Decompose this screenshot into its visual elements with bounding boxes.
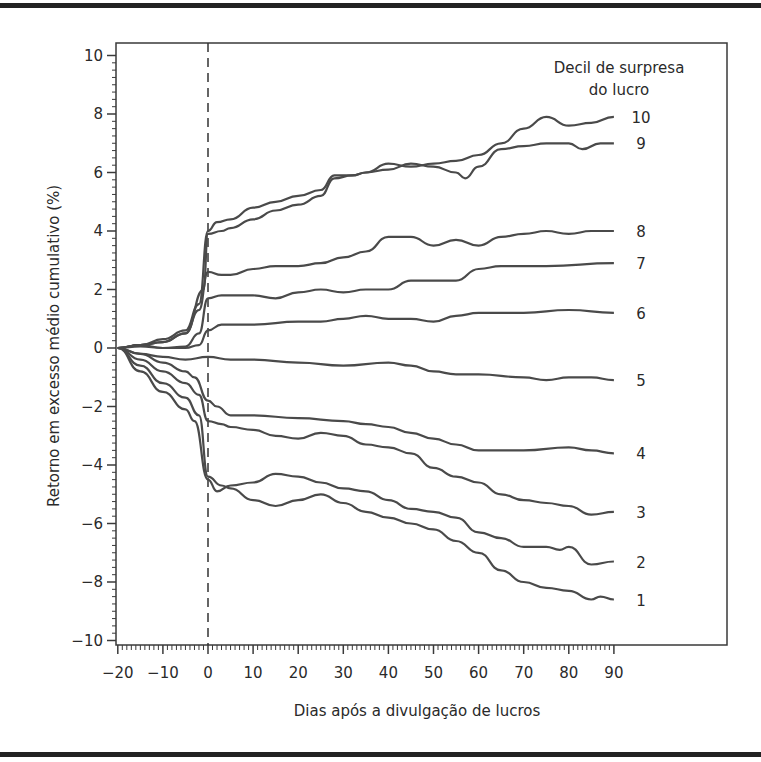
cumulative-abnormal-return-chart: 1086420−2−4−6−8−10 −20−10010203040506070… <box>0 0 761 762</box>
decile-6-label: 6 <box>636 305 646 323</box>
y-axis-title: Retorno em excesso médio cumulativo (%) <box>45 185 63 507</box>
y-tick-label: −2 <box>81 398 103 416</box>
y-tick-label: 2 <box>93 281 103 299</box>
y-tick-label: −10 <box>71 632 103 650</box>
x-tick-label: 60 <box>469 664 488 682</box>
x-tick-label: 0 <box>203 664 213 682</box>
decile-3-line <box>118 348 614 515</box>
series-lines <box>118 117 614 600</box>
x-tick-label: 70 <box>514 664 533 682</box>
x-tick-label: 90 <box>604 664 623 682</box>
y-tick-label: 8 <box>93 105 103 123</box>
decile-8-label: 8 <box>636 223 646 241</box>
y-tick-label: −6 <box>81 515 103 533</box>
y-tick-label: 0 <box>93 339 103 357</box>
decile-9-label: 9 <box>636 135 646 153</box>
decile-5-label: 5 <box>636 372 646 390</box>
decile-2-label: 2 <box>636 554 646 572</box>
decile-1-line <box>118 348 614 600</box>
legend-title-line1: Decil de surpresa <box>554 59 685 77</box>
legend-title-line2: do lucro <box>589 81 649 99</box>
x-axis: −20−100102030405060708090 <box>102 645 623 682</box>
x-tick-label: 80 <box>559 664 578 682</box>
x-tick-label: 50 <box>424 664 443 682</box>
x-tick-label: 10 <box>244 664 263 682</box>
x-tick-label: −20 <box>102 664 134 682</box>
x-tick-label: 20 <box>289 664 308 682</box>
x-axis-title: Dias após a divulgação de lucros <box>294 702 541 720</box>
x-tick-label: 40 <box>379 664 398 682</box>
decile-7-label: 7 <box>636 255 646 273</box>
y-tick-label: 6 <box>93 164 103 182</box>
y-tick-label: 4 <box>93 222 103 240</box>
decile-10-label: 10 <box>631 109 650 127</box>
x-tick-label: 30 <box>334 664 353 682</box>
decile-3-label: 3 <box>636 504 646 522</box>
decile-4-label: 4 <box>636 445 646 463</box>
y-tick-label: 10 <box>84 47 103 65</box>
y-tick-label: −4 <box>81 456 103 474</box>
y-axis: 1086420−2−4−6−8−10 <box>71 47 116 650</box>
series-labels: 10987654321 <box>631 109 650 610</box>
y-tick-label: −8 <box>81 573 103 591</box>
decile-1-label: 1 <box>636 592 646 610</box>
decile-9-line <box>118 143 614 348</box>
x-tick-label: −10 <box>147 664 179 682</box>
decile-7-line <box>118 263 614 348</box>
